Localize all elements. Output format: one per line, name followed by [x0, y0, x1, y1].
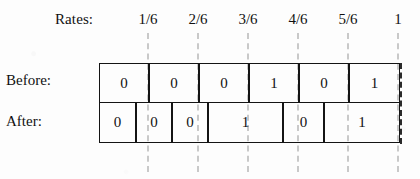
bit-cell-before-0: 0 — [99, 63, 149, 103]
bit-row-before: 000101 — [99, 63, 400, 103]
arithmetic-coding-figure: Rates: 1/62/63/64/65/61 Before: After: 0… — [0, 0, 420, 179]
bit-value: 0 — [320, 75, 328, 90]
bit-value: 1 — [242, 115, 250, 130]
bit-cell-before-1: 0 — [149, 63, 199, 103]
rate-tick-2: 3/6 — [238, 11, 257, 28]
rate-tick-4: 5/6 — [338, 11, 357, 28]
bit-value: 1 — [270, 75, 278, 90]
rate-tick-5: 1 — [394, 11, 402, 28]
bit-cell-after-0: 0 — [99, 103, 136, 143]
bit-value: 0 — [220, 75, 228, 90]
bit-row-after: 000101 — [99, 103, 400, 143]
bit-value: 0 — [170, 75, 178, 90]
row-label-before: Before: — [6, 72, 51, 89]
bit-cell-after-4: 0 — [283, 103, 324, 143]
bit-value: 0 — [120, 75, 128, 90]
bit-cell-after-1: 0 — [136, 103, 172, 143]
bit-cell-grid: 000101 000101 — [99, 63, 400, 144]
bit-cell-before-4: 0 — [299, 63, 349, 103]
bit-value: 0 — [186, 115, 194, 130]
row-label-after: After: — [6, 113, 42, 130]
bit-value: 0 — [150, 115, 158, 130]
rates-axis-label: Rates: — [55, 11, 93, 28]
bit-cell-before-2: 0 — [199, 63, 249, 103]
bit-value: 1 — [358, 115, 366, 130]
rate-tick-0: 1/6 — [138, 11, 157, 28]
bit-cell-after-2: 0 — [172, 103, 208, 143]
bit-value: 0 — [114, 115, 122, 130]
bit-cell-before-5: 1 — [349, 63, 400, 103]
bit-cell-before-3: 1 — [249, 63, 299, 103]
rate-tick-1: 2/6 — [188, 11, 207, 28]
bit-value: 0 — [300, 115, 308, 130]
bit-cell-after-3: 1 — [208, 103, 283, 143]
table-right-open-edge — [400, 63, 402, 144]
rate-tick-3: 4/6 — [288, 11, 307, 28]
bit-cell-after-5: 1 — [324, 103, 400, 143]
bit-value: 1 — [371, 75, 379, 90]
